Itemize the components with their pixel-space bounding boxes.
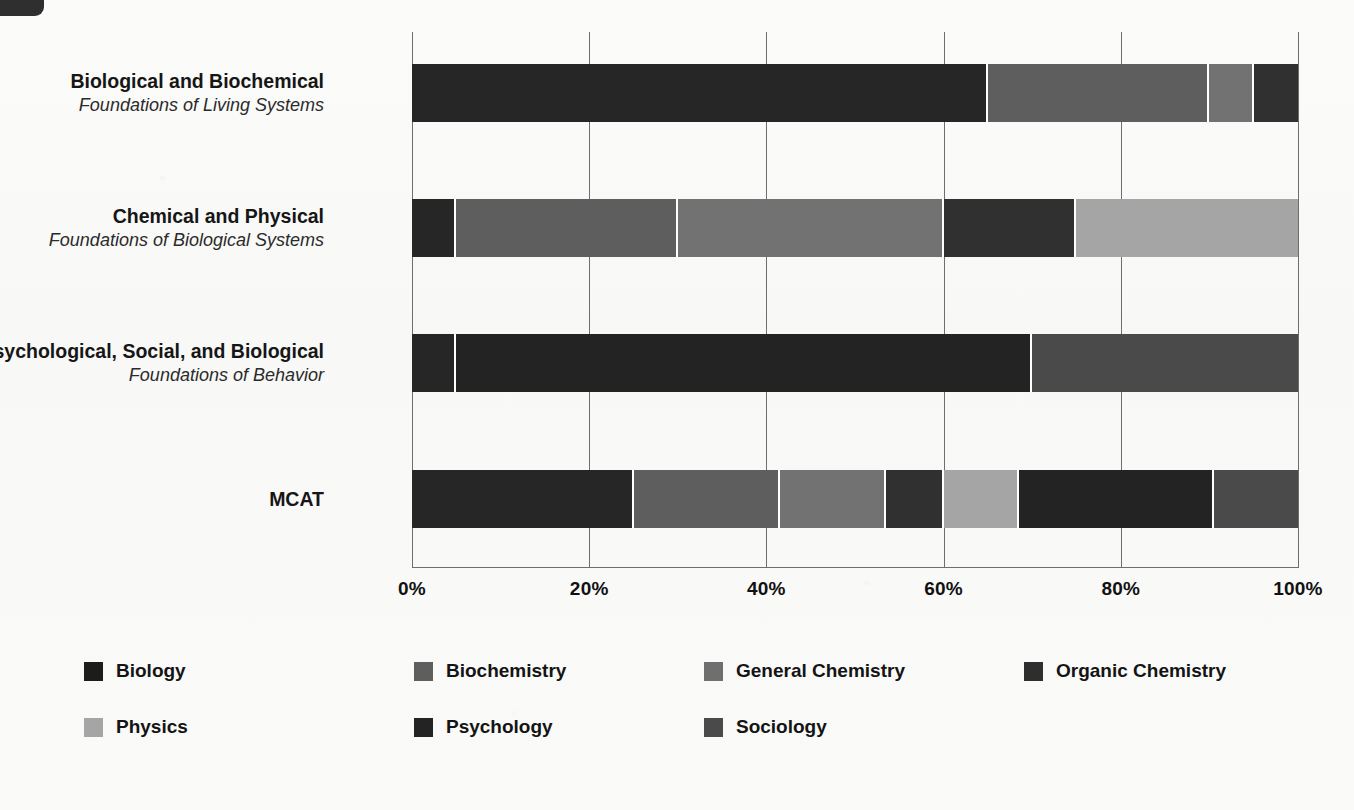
x-axis-line xyxy=(412,567,1299,568)
bar-segment-biology[interactable] xyxy=(412,334,456,392)
legend-item-biology[interactable]: Biology xyxy=(84,660,414,682)
bar-segment-general-chemistry[interactable] xyxy=(678,199,944,257)
legend-label: Biology xyxy=(116,660,186,682)
row-label: MCAT xyxy=(0,487,324,512)
row-label-main: MCAT xyxy=(0,487,324,512)
bar-segment-biology[interactable] xyxy=(412,470,634,528)
legend-item-physics[interactable]: Physics xyxy=(84,716,414,738)
bar-segment-biochemistry[interactable] xyxy=(988,64,1210,122)
chart-row: Chemical and PhysicalFoundations of Biol… xyxy=(0,199,1354,257)
legend-item-sociology[interactable]: Sociology xyxy=(704,716,1024,738)
bar-segment-general-chemistry[interactable] xyxy=(1209,64,1253,122)
x-tick-label: 100% xyxy=(1273,578,1322,600)
row-label-sub: Foundations of Living Systems xyxy=(0,94,324,117)
legend-item-organic-chemistry[interactable]: Organic Chemistry xyxy=(1024,660,1304,682)
legend-label: Sociology xyxy=(736,716,827,738)
legend-swatch-icon xyxy=(704,718,723,737)
bar-segment-organic-chemistry[interactable] xyxy=(1254,64,1298,122)
legend-swatch-icon xyxy=(1024,662,1043,681)
legend-item-psychology[interactable]: Psychology xyxy=(414,716,704,738)
x-tick-label: 80% xyxy=(1101,578,1140,600)
stacked-bar[interactable] xyxy=(412,199,1298,257)
row-label-sub: Foundations of Behavior xyxy=(0,364,324,387)
legend-label: Organic Chemistry xyxy=(1056,660,1226,682)
bar-segment-biochemistry[interactable] xyxy=(456,199,678,257)
legend-swatch-icon xyxy=(84,662,103,681)
x-tick-label: 0% xyxy=(398,578,426,600)
bar-segment-general-chemistry[interactable] xyxy=(780,470,886,528)
legend-swatch-icon xyxy=(414,718,433,737)
legend-label: Psychology xyxy=(446,716,553,738)
row-label: Biological and BiochemicalFoundations of… xyxy=(0,69,324,117)
legend-swatch-icon xyxy=(414,662,433,681)
legend-label: Biochemistry xyxy=(446,660,566,682)
bar-segment-biochemistry[interactable] xyxy=(634,470,780,528)
legend-label: Physics xyxy=(116,716,188,738)
bar-segment-psychology[interactable] xyxy=(456,334,1032,392)
row-label-main: Biological and Biochemical xyxy=(0,69,324,94)
x-tick-label: 60% xyxy=(924,578,963,600)
stacked-bar-chart: 0%20%40%60%80%100% Biological and Bioche… xyxy=(0,0,1354,650)
bar-segment-physics[interactable] xyxy=(944,470,1019,528)
bar-segment-sociology[interactable] xyxy=(1032,334,1298,392)
chart-row: Biological and BiochemicalFoundations of… xyxy=(0,64,1354,122)
x-tick-label: 20% xyxy=(570,578,609,600)
legend-swatch-icon xyxy=(704,662,723,681)
bar-segment-psychology[interactable] xyxy=(1019,470,1214,528)
row-label-sub: Foundations of Biological Systems xyxy=(0,229,324,252)
legend-item-biochemistry[interactable]: Biochemistry xyxy=(414,660,704,682)
stacked-bar[interactable] xyxy=(412,470,1298,528)
chart-row: MCAT xyxy=(0,470,1354,528)
bar-segment-biology[interactable] xyxy=(412,64,988,122)
stacked-bar[interactable] xyxy=(412,64,1298,122)
row-label: Psychological, Social, and BiologicalFou… xyxy=(0,339,324,387)
legend-swatch-icon xyxy=(84,718,103,737)
bar-segment-sociology[interactable] xyxy=(1214,470,1298,528)
bar-segment-organic-chemistry[interactable] xyxy=(944,199,1077,257)
legend-label: General Chemistry xyxy=(736,660,905,682)
row-label-main: Psychological, Social, and Biological xyxy=(0,339,324,364)
row-label: Chemical and PhysicalFoundations of Biol… xyxy=(0,204,324,252)
bar-segment-physics[interactable] xyxy=(1076,199,1298,257)
legend-item-general-chemistry[interactable]: General Chemistry xyxy=(704,660,1024,682)
x-tick-label: 40% xyxy=(747,578,786,600)
chart-legend: BiologyBiochemistryGeneral ChemistryOrga… xyxy=(84,660,1304,738)
chart-row: Psychological, Social, and BiologicalFou… xyxy=(0,334,1354,392)
stacked-bar[interactable] xyxy=(412,334,1298,392)
bar-segment-biology[interactable] xyxy=(412,199,456,257)
bar-segment-organic-chemistry[interactable] xyxy=(886,470,944,528)
row-label-main: Chemical and Physical xyxy=(0,204,324,229)
